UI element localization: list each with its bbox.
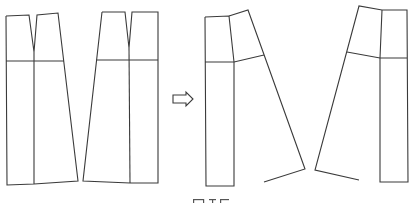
before-group bbox=[6, 12, 158, 185]
back-panel-before-center-line bbox=[129, 48, 130, 183]
front-panel-after-rect bbox=[205, 16, 234, 186]
back-panel-after-hip-line bbox=[347, 52, 407, 58]
back-panel-after-flare bbox=[315, 6, 382, 180]
pattern-diagram bbox=[0, 0, 409, 203]
after-group bbox=[205, 6, 408, 186]
back-panel-before-outline bbox=[83, 12, 158, 183]
caption-partial bbox=[193, 199, 229, 203]
back-panel-after-rect bbox=[380, 10, 408, 182]
front-panel-before-outline bbox=[6, 13, 78, 185]
front-panel-after-flare bbox=[229, 10, 305, 182]
front-panel-after-hip-line bbox=[205, 55, 264, 62]
right-arrow-icon bbox=[173, 92, 193, 106]
